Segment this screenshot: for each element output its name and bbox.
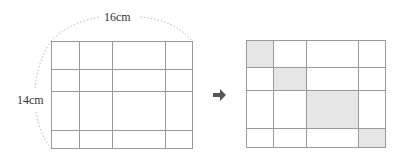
height-label: 14cm [17, 93, 44, 108]
height-dotted-arc-bottom [36, 112, 51, 148]
width-label: 16cm [104, 10, 131, 25]
left-grid [51, 41, 193, 149]
diagram-canvas [0, 0, 403, 161]
right-grid-shading [246, 40, 385, 147]
height-dotted-arc [35, 41, 51, 88]
right-arrow-icon [213, 89, 226, 101]
width-dotted-arc-right [140, 17, 192, 41]
width-dotted-arc [51, 17, 100, 41]
